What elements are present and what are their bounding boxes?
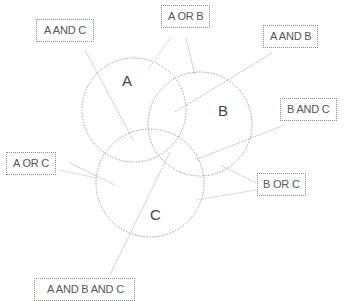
leader-b-or-c xyxy=(220,165,256,183)
callout-b-or-c: B OR C xyxy=(257,173,306,196)
set-label-c: C xyxy=(150,206,161,223)
circle-b xyxy=(148,72,252,176)
leader-a-or-b-2 xyxy=(148,38,170,70)
callout-a-or-c: A OR C xyxy=(6,152,56,175)
set-label-b: B xyxy=(218,102,228,119)
leader-a-and-c xyxy=(85,50,133,140)
callout-a-and-b-and-c: A AND B AND C xyxy=(34,278,135,301)
callout-a-or-b: A OR B xyxy=(161,5,210,28)
set-label-a: A xyxy=(122,72,132,89)
leader-a-or-c xyxy=(70,163,115,185)
callout-a-and-c: A AND C xyxy=(36,19,94,42)
callout-b-and-c: B AND C xyxy=(280,98,337,121)
circle-a xyxy=(82,58,186,162)
leader-a-or-c-2 xyxy=(60,170,96,178)
leader-b-or-c-2 xyxy=(196,190,256,200)
leader-b-and-c xyxy=(195,126,282,160)
leader-a-and-b-and-c xyxy=(110,152,170,275)
leader-a-or-b xyxy=(186,38,195,75)
callout-a-and-b: A AND B xyxy=(263,25,318,48)
